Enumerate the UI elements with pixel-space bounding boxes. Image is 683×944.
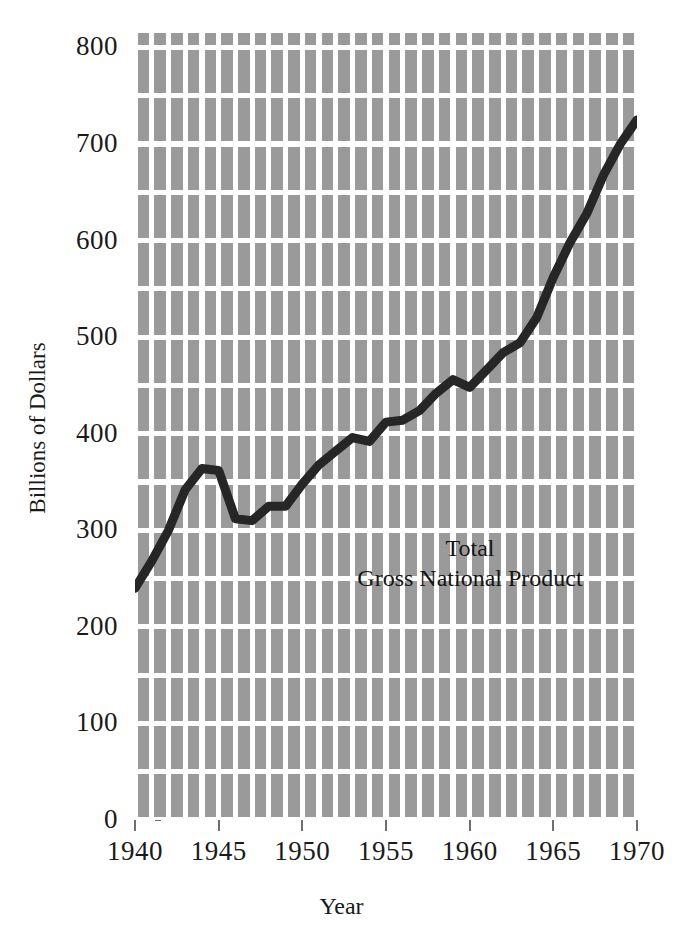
x-axis-title: Year <box>0 893 683 920</box>
y-axis-tick-label: 600 <box>32 227 118 254</box>
x-axis-tick-mark <box>636 820 638 831</box>
gnp-line-chart: 0100200300400500600700800 Billions of Do… <box>0 0 683 944</box>
series-line-total-gnp <box>135 120 637 588</box>
series-annotation-line1: Total <box>310 533 630 563</box>
y-axis-tick-label: 800 <box>32 33 118 60</box>
x-axis-tick-mark <box>134 820 136 831</box>
x-axis-tick-mark <box>552 820 554 831</box>
y-axis-tick-label: 200 <box>32 613 118 640</box>
y-axis-tick-label: 0 <box>32 806 118 833</box>
x-axis-tick-mark <box>469 820 471 831</box>
series-annotation: Total Gross National Product <box>310 533 630 593</box>
x-axis-tick-mark <box>385 820 387 831</box>
y-axis-title: Billions of Dollars <box>25 283 51 573</box>
x-axis-tick-mark <box>301 820 303 831</box>
y-axis-tick-label: 700 <box>32 130 118 157</box>
plot-area: Total Gross National Product <box>135 33 637 820</box>
series-line-layer <box>135 33 637 820</box>
series-annotation-line2: Gross National Product <box>310 563 630 593</box>
y-axis-tick-label: 100 <box>32 709 118 736</box>
x-axis-tick-mark <box>218 820 220 831</box>
x-axis-tick-label: 1970 <box>577 838 683 865</box>
